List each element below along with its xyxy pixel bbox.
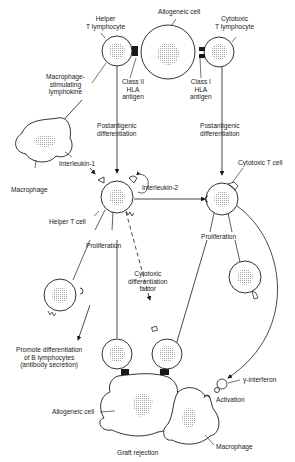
- cytotoxic-t-cell-attacking-icon: [152, 339, 182, 375]
- label-interleukin-1: Interleukin-1: [59, 160, 95, 168]
- label-cytotoxic-t-lymphocyte: Cytotoxic T lymphocyte: [215, 15, 254, 30]
- helper-t-lymphocyte-icon: [102, 36, 132, 66]
- differentiation-factor-icon: [152, 326, 158, 331]
- helper-t-cell-icon: [98, 176, 137, 216]
- label-class-ii-hla: Class II HLA antigen: [122, 78, 144, 101]
- helper-t-cell-attacking-icon: [102, 339, 132, 375]
- label-postantigenic-right: Postantigenic differentiation: [200, 122, 240, 137]
- label-helper-t-lymphocyte: Helper T lymphocyte: [86, 15, 125, 30]
- label-macrophage-left: Macrophage: [11, 186, 48, 194]
- label-gamma-interferon: γ-interferon: [243, 376, 276, 384]
- label-proliferation-left: Proliferation: [86, 242, 121, 250]
- label-allogeneic-cell-bottom: Allogeneic cell: [52, 408, 94, 416]
- allogeneic-cell-top-icon: [141, 25, 195, 79]
- label-helper-t-cell: Helper T cell: [49, 218, 86, 226]
- label-proliferation-right: Proliferation: [201, 233, 236, 241]
- label-cytotoxic-differentiation-factor: Cytotoxic differentiation factor: [128, 270, 167, 293]
- cytotoxic-t-lymphocyte-icon: [204, 37, 234, 67]
- helper-t-cell-proliferated-icon: [44, 279, 83, 316]
- cytotoxic-t-cell-icon: [205, 182, 238, 215]
- macrophage-left-icon: [16, 118, 72, 162]
- label-allogeneic-cell-top: Allogeneic cell: [158, 8, 200, 16]
- label-activation: Activation: [216, 396, 245, 404]
- label-cytotoxic-t-cell: Cytotoxic T cell: [238, 159, 282, 167]
- label-macrophage-stimulating-lymphokine: Macrophage- stimulating lymphokine: [46, 73, 85, 96]
- label-promote-b-differentiation: Promote differentiation of B lymphocytes…: [16, 346, 82, 369]
- diagram-canvas: [0, 0, 295, 462]
- gamma-interferon-icon: [215, 379, 228, 393]
- label-class-i-hla: Class I HLA antigen: [190, 78, 212, 101]
- label-macrophage-bottom: Macrophage: [216, 443, 253, 451]
- label-graft-rejection: Graft rejection: [117, 449, 158, 457]
- label-interleukin-2: Interleukin-2: [142, 184, 178, 192]
- cytotoxic-t-cell-proliferated-icon: [229, 261, 261, 299]
- label-postantigenic-left: Postantigenic differentiation: [97, 122, 137, 137]
